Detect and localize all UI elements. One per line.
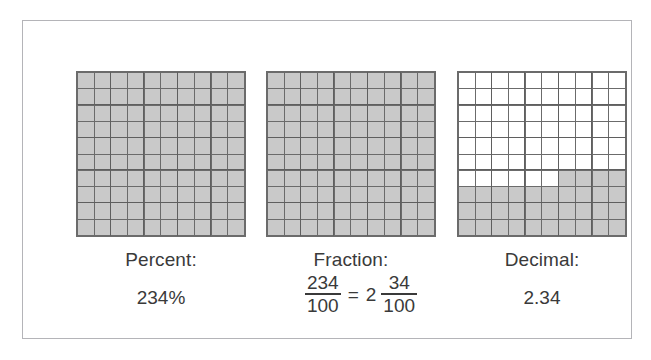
grid-cell	[301, 73, 317, 88]
grid-cell	[318, 89, 334, 104]
grid-cell	[318, 220, 334, 235]
grid-cell	[476, 122, 492, 137]
grid-cell	[178, 73, 194, 88]
grid-cell	[385, 187, 401, 202]
grid-cell	[459, 106, 475, 121]
grid-cell	[285, 106, 301, 121]
grid-cell	[368, 203, 384, 218]
grid-cell	[418, 171, 434, 186]
grid-cell	[161, 106, 177, 121]
grid-cell	[476, 187, 492, 202]
grid-cell	[609, 89, 625, 104]
mixed-number: 2 34 100	[366, 273, 417, 316]
grid-cell	[418, 155, 434, 170]
grid-cell	[145, 171, 161, 186]
improper-numerator: 234	[305, 273, 341, 293]
grid-cell	[111, 138, 127, 153]
grid-cell	[301, 203, 317, 218]
grid-cell	[78, 89, 94, 104]
grid-cell	[385, 122, 401, 137]
grid-cell	[145, 155, 161, 170]
grid-cell	[402, 171, 418, 186]
grid-cell	[285, 122, 301, 137]
grid-cell	[111, 203, 127, 218]
grid-cell	[418, 106, 434, 121]
grid-cell	[385, 138, 401, 153]
grid-cell	[609, 220, 625, 235]
grid-cell	[78, 203, 94, 218]
grid-cell	[128, 187, 144, 202]
grid-cell	[161, 138, 177, 153]
grid-cell	[526, 171, 542, 186]
grid-cell	[526, 187, 542, 202]
grid-cell	[301, 220, 317, 235]
grid-cell	[228, 138, 244, 153]
value-fraction: 234 100 = 2 34 100	[266, 273, 456, 316]
grid-cell	[301, 138, 317, 153]
grid-cell	[609, 138, 625, 153]
grid-cell	[526, 89, 542, 104]
hundreds-grid-percent	[76, 71, 246, 237]
whole-number-part: 2	[366, 285, 377, 304]
grid-cell	[301, 106, 317, 121]
grid-cell	[418, 89, 434, 104]
grid-cell	[212, 187, 228, 202]
mixed-fraction-part: 34 100	[381, 273, 417, 316]
grid-cell	[111, 73, 127, 88]
grid-cell	[335, 106, 351, 121]
grid-cell	[228, 155, 244, 170]
grid-cell	[301, 122, 317, 137]
grid-cell	[492, 220, 508, 235]
grid-cell	[268, 138, 284, 153]
grid-cell	[526, 203, 542, 218]
grid-cell	[78, 122, 94, 137]
grid-cell	[95, 89, 111, 104]
grid-cell	[368, 122, 384, 137]
grid-cell	[609, 73, 625, 88]
grid-cell	[593, 220, 609, 235]
grid-cell	[111, 220, 127, 235]
grid-cell	[111, 187, 127, 202]
grid-cell	[509, 89, 525, 104]
grid-cell	[402, 138, 418, 153]
grid-cell	[111, 155, 127, 170]
grid-cell	[492, 106, 508, 121]
grid-cell	[228, 220, 244, 235]
grid-cell	[228, 203, 244, 218]
grid-cell	[576, 138, 592, 153]
grid-cell	[178, 122, 194, 137]
grid-cell	[385, 73, 401, 88]
grid-cell	[195, 106, 211, 121]
grid-cell	[335, 220, 351, 235]
grid-cell	[609, 106, 625, 121]
grid-cell	[145, 106, 161, 121]
grid-cell	[318, 138, 334, 153]
grid-cell	[459, 122, 475, 137]
grid-cell	[509, 138, 525, 153]
grid-cell	[128, 89, 144, 104]
grid-cell	[476, 106, 492, 121]
grid-cell	[593, 106, 609, 121]
grid-cell	[559, 171, 575, 186]
grid-cell	[285, 187, 301, 202]
grid-cell	[576, 155, 592, 170]
panel-decimal	[457, 71, 627, 237]
grid-cell	[609, 122, 625, 137]
grid-cell	[593, 73, 609, 88]
grid-cell	[402, 187, 418, 202]
grid-cell	[492, 73, 508, 88]
grid-cell	[492, 187, 508, 202]
grid-cell	[195, 155, 211, 170]
grid-cell	[402, 122, 418, 137]
panel-fraction	[266, 71, 436, 237]
grid-cell	[335, 203, 351, 218]
grid-cell	[351, 89, 367, 104]
grid-cell	[492, 138, 508, 153]
grid-cell	[542, 73, 558, 88]
grid-cell	[368, 220, 384, 235]
grid-cell	[526, 73, 542, 88]
grid-cell	[542, 220, 558, 235]
grid-cell	[576, 171, 592, 186]
grid-cell	[195, 171, 211, 186]
grid-cell	[509, 203, 525, 218]
